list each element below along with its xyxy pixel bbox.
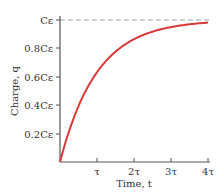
charge-curve — [60, 23, 208, 162]
y-tick-label: Cε — [40, 15, 53, 26]
y-tick-label: 0.6Cε — [24, 72, 53, 83]
y-tick-label: 0.8Cε — [24, 43, 53, 54]
y-axis-title: Charge, q — [9, 65, 20, 116]
y-tick-label: 0.2Cε — [24, 129, 53, 140]
charge-vs-time-chart: Cε 0.8Cε 0.6Cε 0.4Cε 0.2Cε τ 2τ 3τ 4τ Ti… — [0, 0, 224, 194]
x-tick-label: τ — [94, 166, 100, 177]
x-axis-title: Time, t — [116, 178, 152, 189]
x-tick-label: 3τ — [165, 166, 177, 177]
y-tick-label: 0.4Cε — [24, 100, 53, 111]
x-tick-label: 2τ — [128, 166, 140, 177]
x-tick-label: 4τ — [202, 166, 214, 177]
